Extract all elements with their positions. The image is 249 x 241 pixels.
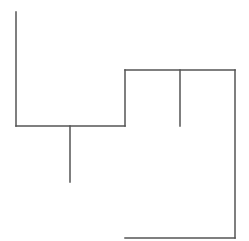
connector-diagram bbox=[0, 0, 249, 241]
